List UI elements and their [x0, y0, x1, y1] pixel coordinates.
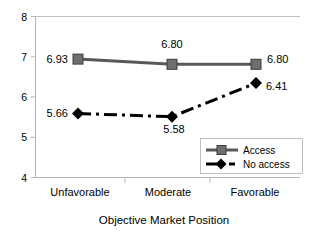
legend-label-no-access: No access [243, 159, 290, 170]
series-no-access [72, 77, 262, 123]
access-label-0: 6.93 [47, 53, 68, 65]
x-tick-label-unfavorable: Unfavorable [50, 186, 109, 198]
x-tick-label-moderate: Moderate [145, 186, 191, 198]
x-axis-ticks [125, 178, 210, 183]
y-tick-label-7: 7 [21, 51, 27, 63]
y-tick-label-5: 5 [21, 131, 27, 143]
access-label-1: 6.80 [161, 38, 182, 50]
no-access-line [78, 83, 256, 117]
y-tick-label-8: 8 [21, 11, 27, 23]
access-marker-0 [73, 54, 83, 64]
no-access-label-1: 5.58 [163, 123, 184, 135]
series-access [73, 54, 261, 69]
x-axis-tick-labels: Unfavorable Moderate Favorable [50, 186, 279, 198]
data-point-labels: 6.93 6.80 6.80 5.66 5.58 6.41 [47, 38, 289, 135]
chart-figure: 8 7 6 5 4 6.93 6.80 6.80 [0, 0, 319, 241]
x-axis-title: Objective Market Position [99, 214, 229, 226]
no-access-label-2: 6.41 [266, 80, 287, 92]
y-axis-ticks [31, 17, 35, 178]
no-access-marker-1 [166, 111, 178, 123]
access-label-2: 6.80 [267, 53, 288, 65]
no-access-marker-2 [250, 77, 262, 89]
legend-swatch-access-marker [217, 146, 226, 155]
y-tick-label-6: 6 [21, 91, 27, 103]
y-tick-label-4: 4 [21, 172, 27, 184]
y-axis-tick-labels: 8 7 6 5 4 [21, 11, 27, 184]
line-chart: 8 7 6 5 4 6.93 6.80 6.80 [0, 0, 319, 241]
access-marker-2 [251, 59, 261, 69]
x-tick-label-favorable: Favorable [231, 186, 280, 198]
chart-legend[interactable]: Access No access [201, 139, 303, 174]
no-access-marker-0 [72, 108, 84, 120]
legend-label-access: Access [243, 145, 275, 156]
no-access-label-0: 5.66 [47, 107, 68, 119]
access-marker-1 [167, 59, 177, 69]
